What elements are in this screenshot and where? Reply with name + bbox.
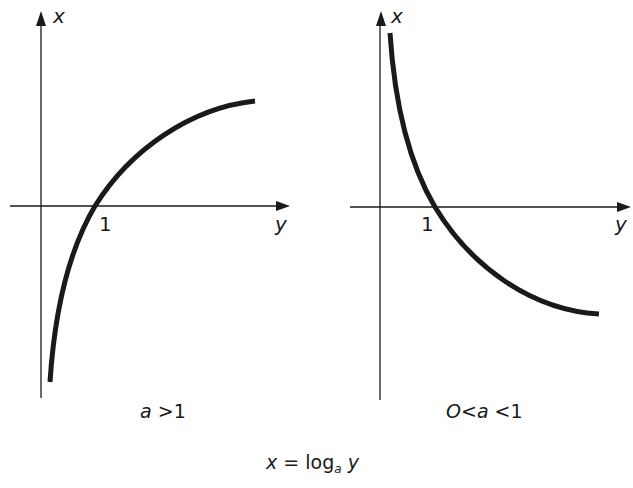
right-x-axis-label: y	[615, 214, 627, 234]
left-tick-label-1: 1	[99, 214, 112, 234]
left-log-curve	[50, 101, 255, 382]
left-y-axis-label: x	[53, 6, 65, 26]
right-condition: O<a <1	[446, 400, 523, 422]
left-condition: a >1	[140, 400, 186, 422]
right-log-curve	[390, 33, 599, 314]
right-x-axis-arrow-icon	[617, 202, 631, 212]
left-x-axis-label: y	[275, 214, 287, 234]
log-graphs-svg	[0, 0, 633, 488]
right-y-axis-label: x	[391, 6, 403, 26]
right-y-axis-arrow-icon	[376, 11, 386, 26]
left-y-axis-arrow-icon	[36, 11, 46, 26]
right-tick-label-1: 1	[421, 214, 434, 234]
left-x-axis-arrow-icon	[276, 201, 290, 211]
left-panel	[10, 11, 290, 398]
right-panel	[350, 11, 631, 400]
formula-caption: x = loga y	[266, 451, 359, 476]
